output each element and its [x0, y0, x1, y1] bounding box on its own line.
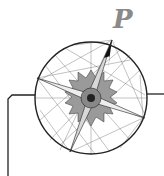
compass-rose-icon: [35, 40, 147, 154]
compass-rose-diagram: [0, 0, 164, 176]
left-connector-line: [8, 95, 35, 176]
